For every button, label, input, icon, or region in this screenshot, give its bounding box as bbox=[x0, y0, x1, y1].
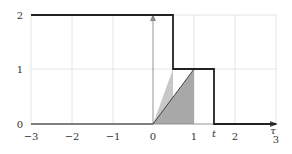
y-tick-labels: 0 1 2 bbox=[17, 10, 23, 130]
x-tick: −1 bbox=[106, 131, 121, 142]
x-tick: 1 bbox=[191, 131, 197, 142]
x-tick-labels: −3 −2 −1 0 1 2 3 bbox=[24, 131, 280, 145]
x-tick: 0 bbox=[150, 131, 156, 142]
tau-label: τ bbox=[270, 125, 276, 136]
x-tick: −2 bbox=[65, 131, 80, 142]
step-function bbox=[31, 15, 276, 124]
y-tick: 1 bbox=[17, 64, 23, 75]
grid bbox=[31, 15, 276, 124]
t-label: t bbox=[212, 128, 217, 139]
y-tick: 0 bbox=[17, 119, 23, 130]
x-tick: −3 bbox=[24, 131, 39, 142]
plot: −3 −2 −1 0 1 2 3 0 1 2 t τ bbox=[0, 0, 292, 154]
y-tick: 2 bbox=[17, 10, 23, 21]
x-tick: 2 bbox=[232, 131, 238, 142]
